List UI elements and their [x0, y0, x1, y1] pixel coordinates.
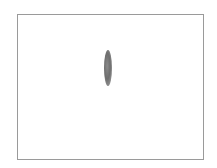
gray-ellipse-shape [104, 50, 112, 86]
bordered-frame [17, 14, 204, 160]
